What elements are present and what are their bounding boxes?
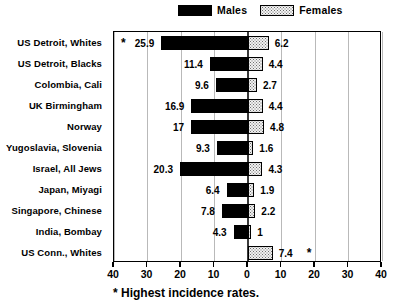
value-label-males: 9.6 xyxy=(195,79,209,90)
value-label-males: 9.3 xyxy=(196,142,210,153)
value-label-females: 1 xyxy=(257,226,263,237)
category-label: US Detroit, Whites xyxy=(17,36,102,47)
value-label-females: 1.6 xyxy=(259,142,273,153)
category-label: India, Bombay xyxy=(36,225,102,236)
bar-females xyxy=(248,141,253,155)
value-label-females: 4.8 xyxy=(270,121,284,132)
axis-tick-label: 30 xyxy=(342,268,354,280)
value-label-males: 6.4 xyxy=(206,184,220,195)
footnote-asterisk-icon: * xyxy=(113,286,118,300)
axis-tick-label: 30 xyxy=(141,268,153,280)
bar-males xyxy=(191,99,248,113)
axis-tick-label: 10 xyxy=(275,268,287,280)
axis-tick xyxy=(246,262,247,267)
axis-tick-label: 10 xyxy=(208,268,220,280)
bar-males xyxy=(217,141,248,155)
axis-tick xyxy=(380,262,381,267)
category-label: US Conn., Whites xyxy=(21,246,102,257)
value-label-males: 25.9 xyxy=(135,37,154,48)
axis-tick-label: 20 xyxy=(174,268,186,280)
bar-males xyxy=(216,78,248,92)
axis-tick xyxy=(213,262,214,267)
value-label-females: 4.4 xyxy=(269,100,283,111)
value-label-females: 1.9 xyxy=(260,184,274,195)
bar-females xyxy=(248,78,257,92)
bar-females xyxy=(248,99,263,113)
bar-females xyxy=(248,204,255,218)
category-label: Japan, Miyagi xyxy=(38,183,102,194)
value-label-females: 4.3 xyxy=(268,163,282,174)
males-swatch-icon xyxy=(178,5,212,16)
legend-item-males: Males xyxy=(178,4,247,16)
bar-males xyxy=(222,204,248,218)
legend-label-females: Females xyxy=(299,4,342,16)
bar-females xyxy=(248,57,263,71)
gridline xyxy=(147,32,148,261)
females-swatch-icon xyxy=(260,5,294,16)
axis-tick xyxy=(347,262,348,267)
value-label-females: 4.4 xyxy=(269,58,283,69)
gridline xyxy=(315,32,316,261)
legend: Males Females xyxy=(178,2,343,18)
bar-males xyxy=(180,162,248,176)
legend-item-females: Females xyxy=(260,4,342,16)
figure: Males Females US Detroit, WhitesUS Detro… xyxy=(0,0,398,308)
value-label-females: 6.2 xyxy=(275,37,289,48)
category-label: Singapore, Chinese xyxy=(12,204,103,215)
bar-males xyxy=(191,120,248,134)
bar-females xyxy=(248,225,251,239)
axis-tick xyxy=(179,262,180,267)
axis-tick-label: 0 xyxy=(244,268,250,280)
value-label-females: 2.2 xyxy=(261,205,275,216)
axis-tick-label: 40 xyxy=(375,268,387,280)
footnote-text: Highest incidence rates. xyxy=(121,286,259,300)
bar-females xyxy=(248,36,269,50)
value-label-females: 7.4 xyxy=(279,247,293,258)
bar-males xyxy=(234,225,248,239)
category-label: UK Birmingham xyxy=(29,99,102,110)
bar-males xyxy=(210,57,248,71)
value-label-males: 16.9 xyxy=(165,100,184,111)
bar-males xyxy=(227,183,248,197)
value-label-males: 20.3 xyxy=(154,163,173,174)
legend-label-males: Males xyxy=(217,4,247,16)
axis-tick xyxy=(313,262,314,267)
value-axis: 40302010010203040 xyxy=(113,262,381,284)
gridline xyxy=(181,32,182,261)
category-label: Norway xyxy=(67,120,102,131)
highlight-asterisk-icon: * xyxy=(307,247,312,259)
bar-females xyxy=(248,120,264,134)
value-label-males: 4.3 xyxy=(213,226,227,237)
category-label: Israel, All Jews xyxy=(33,162,102,173)
plot-area: 25.9*6.211.44.49.62.716.94.4174.89.31.62… xyxy=(113,31,381,262)
gridline xyxy=(114,32,115,261)
value-label-males: 7.8 xyxy=(201,205,215,216)
value-label-males: 17 xyxy=(173,121,184,132)
bar-females xyxy=(248,162,262,176)
bar-females xyxy=(248,246,273,260)
axis-tick-label: 40 xyxy=(107,268,119,280)
value-label-females: 2.7 xyxy=(263,79,277,90)
category-label: Colombia, Cali xyxy=(35,78,102,89)
axis-tick-label: 20 xyxy=(308,268,320,280)
category-label: US Detroit, Blacks xyxy=(18,57,102,68)
gridline xyxy=(348,32,349,261)
bar-males xyxy=(161,36,248,50)
value-label-males: 11.4 xyxy=(184,58,203,69)
category-axis: US Detroit, WhitesUS Detroit, BlacksColo… xyxy=(0,31,108,262)
footnote: * Highest incidence rates. xyxy=(113,286,259,300)
axis-tick xyxy=(112,262,113,267)
axis-tick xyxy=(280,262,281,267)
gridline xyxy=(382,32,383,261)
bar-females xyxy=(248,183,254,197)
highlight-asterisk-icon: * xyxy=(121,37,126,49)
axis-tick xyxy=(146,262,147,267)
category-label: Yugoslavia, Slovenia xyxy=(6,141,102,152)
